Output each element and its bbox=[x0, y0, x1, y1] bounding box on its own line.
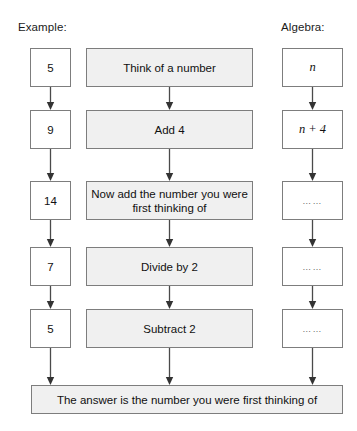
process-box: Add 4 bbox=[86, 110, 253, 149]
example-box: 5 bbox=[30, 48, 71, 87]
flow-arrow bbox=[165, 220, 174, 247]
example-box: 7 bbox=[30, 247, 71, 286]
flow-arrow bbox=[165, 149, 174, 181]
algebra-box: …… bbox=[282, 181, 343, 220]
example-box: 9 bbox=[30, 110, 71, 149]
process-box: Divide by 2 bbox=[86, 247, 253, 286]
flow-arrow bbox=[308, 149, 317, 181]
flow-arrow bbox=[46, 149, 55, 181]
flow-arrow bbox=[308, 220, 317, 247]
answer-box: The answer is the number you were first … bbox=[31, 385, 343, 414]
process-box: Think of a number bbox=[86, 48, 253, 87]
flow-arrow bbox=[308, 286, 317, 309]
flow-arrow bbox=[308, 87, 317, 110]
example-box: 14 bbox=[30, 181, 71, 220]
example-box: 5 bbox=[30, 309, 71, 348]
flow-arrow bbox=[46, 87, 55, 110]
algebra-box: n bbox=[282, 48, 343, 87]
algebra-box: n + 4 bbox=[282, 110, 343, 149]
flow-arrow bbox=[165, 348, 174, 385]
flow-arrow bbox=[308, 348, 317, 385]
algebra-box: …… bbox=[282, 309, 343, 348]
process-box: Now add the number you were first thinki… bbox=[86, 181, 253, 220]
flow-arrow bbox=[165, 286, 174, 309]
column-header-example: Example: bbox=[18, 21, 67, 33]
flow-arrow bbox=[46, 286, 55, 309]
flow-arrow bbox=[165, 87, 174, 110]
process-box: Subtract 2 bbox=[86, 309, 253, 348]
column-header-algebra: Algebra: bbox=[281, 21, 325, 33]
flow-arrow bbox=[46, 348, 55, 385]
algebra-box: …… bbox=[282, 247, 343, 286]
flow-arrow bbox=[46, 220, 55, 247]
flowchart-diagram: Example: Algebra: 5 Think of a number n … bbox=[0, 0, 357, 431]
